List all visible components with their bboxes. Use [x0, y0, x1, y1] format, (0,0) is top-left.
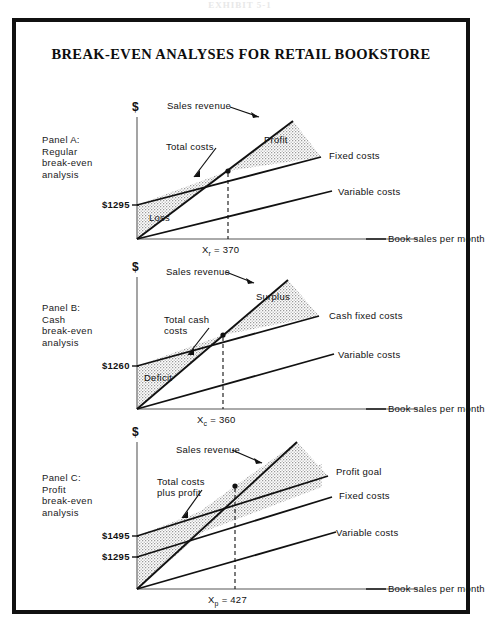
panel-c-y-tick-lower: $1295	[102, 551, 130, 562]
panel-a-fixed-costs-label: Fixed costs	[329, 150, 380, 161]
panel-a-variable-costs-label: Variable costs	[338, 186, 400, 197]
panel-a-sales-revenue-label: Sales revenue	[167, 100, 231, 111]
panel-b-deficit-region-label: Deficit	[144, 372, 172, 383]
panel-a-loss-region-label: Loss	[149, 212, 170, 223]
panel-b-variable-costs-label: Variable costs	[338, 349, 400, 360]
panel-c-profit-goal-label: Profit goal	[336, 466, 382, 477]
panel-c-x-axis-label: Book sales per month	[388, 583, 485, 594]
exhibit-caption: EXHIBIT 5-1	[0, 0, 480, 10]
panel-a-x-axis-label: Book sales per month	[388, 233, 485, 244]
panel-b-sales-revenue-label: Sales revenue	[166, 266, 230, 277]
panel-c: Panel C: Profit break-even analysis	[16, 414, 474, 614]
exhibit-frame: BREAK-EVEN ANALYSES FOR RETAIL BOOKSTORE…	[12, 18, 470, 614]
panel-c-total-costs-plus-profit-label: Total costs plus profit	[157, 476, 205, 498]
panel-c-variable-costs-label: Variable costs	[336, 527, 398, 538]
panel-c-y-axis-symbol: $	[132, 427, 139, 438]
panel-b-y-axis-symbol: $	[132, 262, 139, 273]
panel-a-profit-region-label: Profit	[264, 134, 288, 145]
panel-b-x-axis-label: Book sales per month	[388, 403, 485, 414]
panel-c-y-tick-upper: $1495	[102, 530, 130, 541]
panel-b-surplus-region-label: Surplus	[256, 291, 290, 302]
panel-c-breakeven-label: Xp = 427	[208, 594, 247, 609]
panel-a-total-costs-label: Total costs	[166, 141, 214, 152]
panel-c-sales-revenue-label: Sales revenue	[176, 444, 240, 455]
panel-a: Panel A: Regular break-even analysis	[16, 74, 474, 264]
panel-b: Panel B: Cash break-even analysis	[16, 244, 474, 434]
panel-b-total-cash-costs-label: Total cash costs	[164, 314, 209, 336]
page-title: BREAK-EVEN ANALYSES FOR RETAIL BOOKSTORE	[16, 46, 466, 63]
panel-b-y-tick: $1260	[102, 360, 130, 371]
panel-a-y-axis-symbol: $	[132, 102, 139, 113]
panel-a-y-tick: $1295	[102, 199, 130, 210]
panel-c-fixed-costs-label: Fixed costs	[339, 490, 390, 501]
panel-b-cash-fixed-costs-label: Cash fixed costs	[329, 310, 403, 321]
